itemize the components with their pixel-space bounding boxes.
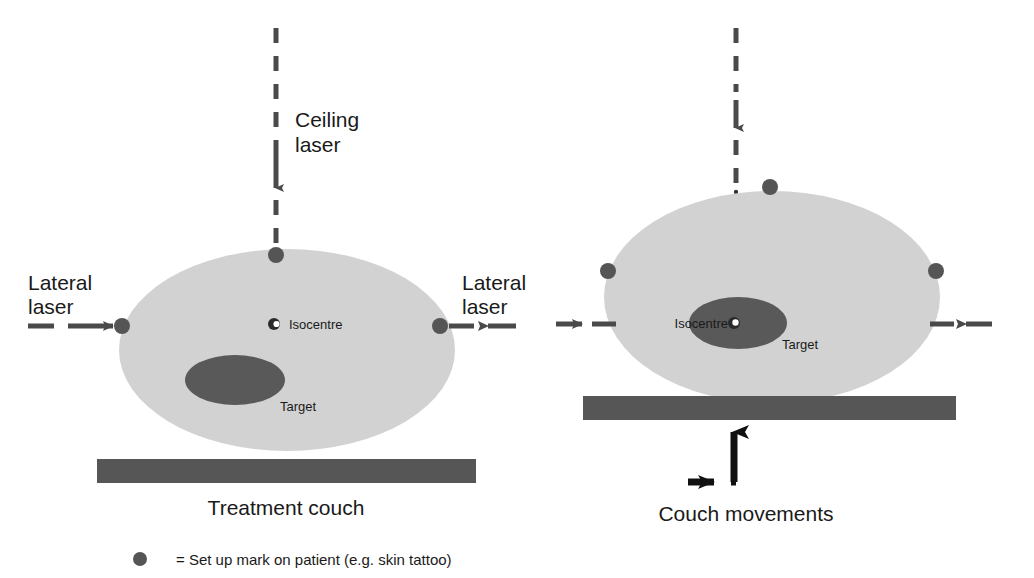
lateral-laser-right-label-line2: laser	[462, 295, 508, 318]
setup-mark-lateral-right	[432, 318, 448, 334]
lateral-laser-left-label-line1: Lateral	[28, 271, 92, 294]
couch-movements-label: Couch movements	[658, 502, 833, 525]
treatment-couch-right	[583, 396, 956, 420]
lateral-laser-left-label-line2: laser	[28, 295, 74, 318]
patient-body-outline	[119, 249, 455, 451]
patient-body-outline-right	[604, 191, 940, 403]
ceiling-laser-label-line2: laser	[295, 133, 341, 156]
setup-mark-lateral-right-right	[928, 263, 944, 279]
isocentre-marker-highlight	[273, 321, 279, 327]
isocentre-label-right: Isocentre	[675, 316, 728, 331]
target-label-right: Target	[782, 337, 819, 352]
setup-mark-anterior-right	[762, 179, 778, 195]
diagram-canvas: Ceiling laser Isocentre Target Lateral l…	[0, 0, 1034, 578]
treatment-couch-left	[97, 459, 476, 483]
target-volume	[185, 355, 285, 405]
treatment-couch-label: Treatment couch	[208, 496, 365, 519]
legend-text: = Set up mark on patient (e.g. skin tatt…	[176, 551, 452, 568]
setup-mark-lateral-left	[114, 318, 130, 334]
isocentre-label: Isocentre	[289, 317, 342, 332]
isocentre-marker-highlight-right	[732, 319, 738, 325]
legend: = Set up mark on patient (e.g. skin tatt…	[133, 551, 452, 568]
setup-mark-dot-icon	[133, 552, 147, 566]
lateral-laser-right-label-line1: Lateral	[462, 271, 526, 294]
setup-mark-lateral-left-right	[600, 263, 616, 279]
panel-left: Ceiling laser Isocentre Target Lateral l…	[28, 28, 526, 519]
setup-mark-anterior	[268, 247, 284, 263]
radiotherapy-setup-diagram: Ceiling laser Isocentre Target Lateral l…	[0, 0, 1034, 578]
target-label: Target	[280, 399, 317, 414]
ceiling-laser-label-line1: Ceiling	[295, 108, 359, 131]
panel-right: Isocentre Target Couch movements	[556, 28, 992, 525]
